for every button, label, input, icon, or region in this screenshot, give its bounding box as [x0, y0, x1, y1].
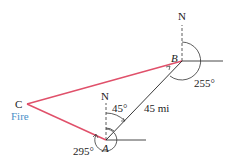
point-label-A: A — [101, 142, 109, 154]
angle-label-295: 295° — [73, 145, 94, 157]
arrowhead-B — [166, 66, 170, 70]
angle-label-45: 45° — [112, 102, 127, 114]
north-label-A: N — [101, 90, 109, 102]
fire-label: Fire — [11, 110, 29, 122]
point-label-B: B — [171, 52, 178, 64]
distance-label-AB: 45 mi — [144, 102, 169, 114]
side-AB — [106, 61, 182, 140]
side-CA — [27, 104, 106, 140]
north-label-B: N — [178, 10, 186, 22]
point-label-C: C — [15, 98, 22, 110]
bearing-diagram: N N B A C Fire 45° 45 mi 255° 295° — [0, 0, 233, 166]
angle-arc-45-A — [106, 113, 125, 121]
angle-label-255: 255° — [194, 77, 215, 89]
